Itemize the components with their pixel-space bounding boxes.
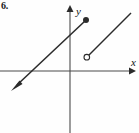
y-axis-label: y [75,5,81,17]
x-axis-label: x [130,56,136,68]
ray-arrowhead [11,81,23,92]
y-axis-arrowhead [67,5,74,12]
closed-endpoint-dot [83,17,89,23]
ray-line [17,21,85,85]
segment-with-open-endpoint [84,13,131,60]
math-figure-6: 6. y x [0,0,139,133]
open-endpoint-circle [84,54,90,60]
x-axis-arrowhead [129,67,136,74]
x-axis-group [0,67,136,74]
y-axis-group [67,5,74,133]
coordinate-graph: y x [0,0,139,133]
ray-with-closed-endpoint [11,17,89,91]
segment-line [89,13,131,55]
